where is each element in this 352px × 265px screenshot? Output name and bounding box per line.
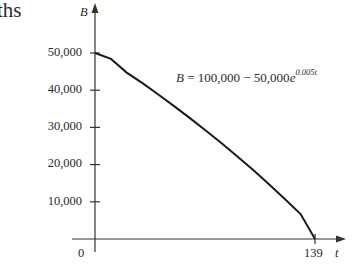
- equation-rhs: = 100,000 − 50,000: [184, 70, 290, 85]
- x-tick-label-origin: 0: [78, 246, 84, 261]
- y-tick-label: 10,000: [22, 194, 82, 209]
- y-tick-label: 50,000: [22, 45, 82, 60]
- y-tick-label: 40,000: [22, 82, 82, 97]
- equation-lhs: B: [176, 70, 184, 85]
- equation-exponent: 0.005t: [295, 67, 317, 77]
- equation-annotation: B = 100,000 − 50,000e0.005t: [176, 67, 317, 86]
- y-axis-arrow-icon: [92, 3, 99, 13]
- y-axis-label: B: [80, 5, 88, 20]
- x-axis-label: t: [335, 246, 338, 261]
- x-axis-arrow-icon: [336, 236, 346, 243]
- y-tick-label: 20,000: [22, 156, 82, 171]
- x-tick-label-139: 139: [304, 246, 323, 261]
- y-tick-label: 30,000: [22, 119, 82, 134]
